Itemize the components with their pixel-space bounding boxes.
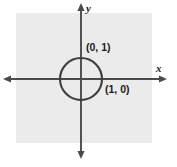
- x-axis-right-arrow-icon: [159, 75, 167, 82]
- x-axis-label: x: [155, 62, 162, 74]
- plot-background-panel: [16, 13, 152, 143]
- y-axis-bottom-arrow-icon: [77, 151, 84, 159]
- y-axis-label: y: [84, 2, 91, 14]
- y-axis-top-arrow-icon: [77, 3, 84, 11]
- x-axis-left-arrow-icon: [3, 75, 11, 82]
- figure-container: (0, 1) (1, 0) x y: [0, 0, 177, 167]
- point-label-0-1: (0, 1): [86, 41, 111, 53]
- point-label-1-0: (1, 0): [105, 83, 130, 95]
- unit-circle-diagram: (0, 1) (1, 0) x y: [0, 0, 177, 167]
